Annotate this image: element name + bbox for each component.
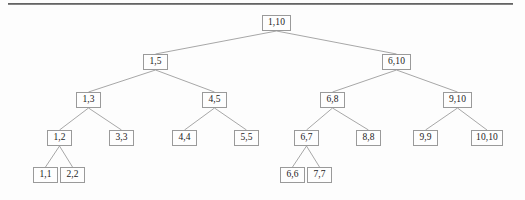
tree-node-6-7: 6,7 [294, 130, 319, 146]
tree-node-9-9: 9,9 [413, 130, 438, 146]
tree-edge-n1_3-to-n3_3 [89, 108, 122, 130]
tree-node-6-6: 6,6 [280, 167, 305, 183]
tree-node-4-5: 4,5 [202, 92, 227, 108]
tree-node-1-2: 1,2 [47, 130, 72, 146]
tree-node-1-3: 1,3 [76, 92, 101, 108]
tree-node-2-2: 2,2 [60, 167, 85, 183]
tree-edge-n1_10-to-n6_10 [277, 31, 397, 54]
tree-edge-n6_10-to-n9_10 [397, 70, 458, 92]
tree-node-10-10: 10,10 [471, 130, 503, 146]
tree-edge-n1_5-to-n1_3 [89, 70, 156, 92]
tree-node-5-5: 5,5 [234, 130, 259, 146]
tree-node-7-7: 7,7 [307, 167, 332, 183]
tree-edge-n1_2-to-n1_1 [46, 146, 60, 167]
tree-edge-n1_5-to-n4_5 [156, 70, 215, 92]
tree-node-6-8: 6,8 [320, 92, 345, 108]
tree-edge-n6_7-to-n6_6 [293, 146, 307, 167]
tree-node-3-3: 3,3 [109, 130, 134, 146]
tree-node-9-10: 9,10 [443, 92, 472, 108]
tree-edge-n6_7-to-n7_7 [307, 146, 320, 167]
tree-edge-n1_10-to-n1_5 [156, 31, 277, 54]
tree-edge-n1_3-to-n1_2 [60, 108, 89, 130]
tree-node-8-8: 8,8 [356, 130, 381, 146]
tree-edge-n6_10-to-n6_8 [333, 70, 397, 92]
tree-edge-n6_8-to-n8_8 [333, 108, 369, 130]
tree-node-1-1: 1,1 [33, 167, 58, 183]
tree-node-1-10: 1,10 [262, 15, 291, 31]
tree-edge-n1_2-to-n2_2 [60, 146, 73, 167]
tree-node-1-5: 1,5 [143, 54, 168, 70]
tree-edge-n4_5-to-n4_4 [185, 108, 215, 130]
tree-node-4-4: 4,4 [172, 130, 197, 146]
tree-node-6-10: 6,10 [382, 54, 411, 70]
tree-edge-n9_10-to-n10_10 [458, 108, 488, 130]
tree-edge-n4_5-to-n5_5 [215, 108, 247, 130]
tree-edge-n9_10-to-n9_9 [426, 108, 458, 130]
figure-canvas: 1,101,56,101,34,56,89,101,23,34,45,56,78… [0, 0, 525, 200]
tree-edge-n6_8-to-n6_7 [307, 108, 333, 130]
